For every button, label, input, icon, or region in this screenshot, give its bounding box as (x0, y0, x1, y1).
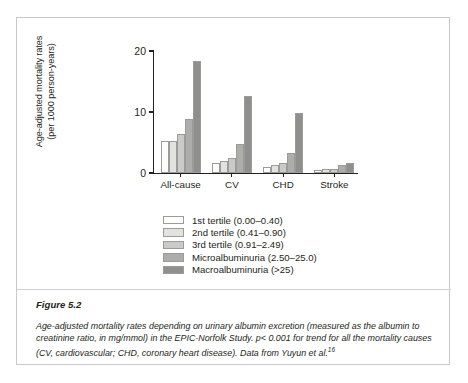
y-axis-tick: 10 (149, 111, 154, 112)
bar (346, 163, 354, 173)
x-group-label: All-cause (160, 179, 200, 190)
plot-area: 01020 All-causeCVCHDStroke (153, 51, 358, 173)
x-group-label: CV (225, 179, 239, 190)
legend-item: 1st tertile (0.00–0.40) (163, 214, 413, 226)
figure-page: Age-adjusted mortality rates (per 1000 p… (0, 0, 468, 383)
legend-swatch (163, 216, 184, 225)
y-axis-tick: 20 (149, 50, 154, 51)
bar (279, 163, 287, 173)
bar (287, 153, 295, 173)
legend-label: 1st tertile (0.00–0.40) (192, 215, 283, 226)
x-axis-tick (334, 173, 335, 177)
bar (185, 119, 193, 173)
legend-item: Macroalbuminuria (>25) (163, 264, 413, 276)
y-axis-label: Age-adjusted mortality rates (per 1000 p… (34, 12, 57, 172)
legend-label: 3rd tertile (0.91–2.49) (192, 239, 284, 250)
x-group-label: Stroke (320, 179, 348, 190)
figure-number: Figure 5.2 (36, 299, 432, 310)
x-axis-line (153, 173, 358, 174)
x-group-label: CHD (273, 179, 294, 190)
bar (193, 61, 201, 173)
legend-item: 2nd tertile (0.41–0.90) (163, 226, 413, 238)
bar (236, 144, 244, 173)
legend-item: Microalbuminuria (2.50–25.0) (163, 251, 413, 263)
chart-legend: 1st tertile (0.00–0.40)2nd tertile (0.41… (163, 214, 413, 276)
figure-panel: Age-adjusted mortality rates (per 1000 p… (16, 17, 450, 365)
bar (212, 163, 220, 173)
legend-label: Macroalbuminuria (>25) (192, 264, 294, 275)
bar (169, 141, 177, 173)
y-axis-tick-label: 20 (134, 45, 146, 57)
caption-divider (17, 289, 451, 290)
caption-reference: 16 (328, 346, 335, 353)
bar (220, 161, 228, 173)
x-axis-tick (283, 173, 284, 177)
bar (330, 169, 338, 173)
bar (338, 165, 346, 173)
bar (295, 113, 303, 173)
legend-swatch (163, 266, 184, 275)
bar (314, 170, 322, 173)
y-axis-tick-label: 10 (134, 106, 146, 118)
legend-item: 3rd tertile (0.91–2.49) (163, 239, 413, 251)
bar (322, 169, 330, 173)
x-axis-tick (180, 173, 181, 177)
caption-block: Figure 5.2 Age-adjusted mortality rates … (36, 299, 432, 360)
bar (271, 165, 279, 173)
y-axis-tick-label: 0 (140, 167, 146, 179)
bar (263, 167, 271, 173)
legend-swatch (163, 241, 184, 250)
legend-swatch (163, 228, 184, 237)
bar (228, 158, 236, 173)
bar (177, 134, 185, 173)
y-axis-tick: 0 (149, 172, 154, 173)
legend-label: Microalbuminuria (2.50–25.0) (192, 252, 317, 263)
bar (161, 141, 169, 173)
legend-swatch (163, 253, 184, 262)
x-axis-tick (231, 173, 232, 177)
legend-label: 2nd tertile (0.41–0.90) (192, 227, 286, 238)
figure-caption: Age-adjusted mortality rates depending o… (36, 321, 432, 360)
bar (244, 96, 252, 173)
